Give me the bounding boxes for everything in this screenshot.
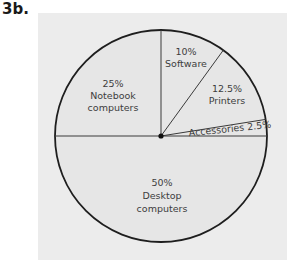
desktop-label-line2: computers	[137, 203, 188, 214]
printers-label: Printers	[209, 95, 246, 106]
desktop-percent: 50%	[151, 177, 172, 188]
printers-percent: 12.5%	[212, 83, 242, 94]
desktop-label-line1: Desktop	[142, 190, 181, 201]
notebook-label-line1: Notebook	[90, 90, 136, 101]
notebook-percent: 25%	[102, 78, 123, 89]
notebook-label-line2: computers	[88, 102, 139, 113]
software-percent: 10%	[175, 46, 196, 57]
center-dot	[158, 133, 163, 138]
pie-chart: 10% Software 12.5% Printers Accessories …	[0, 0, 291, 268]
software-label: Software	[165, 58, 207, 69]
